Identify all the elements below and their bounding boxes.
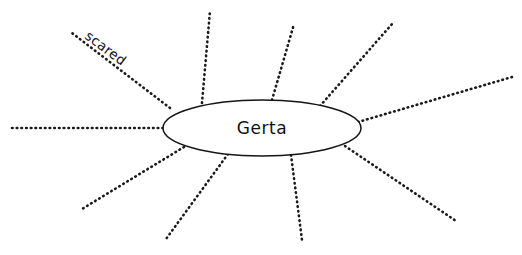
ray-top-center bbox=[272, 24, 294, 100]
center-bubble-label: Gerta bbox=[237, 118, 288, 138]
word-web-worksheet: Gerta scared bbox=[0, 0, 522, 255]
ray-bottom-right bbox=[291, 155, 302, 240]
ray-bottom-left bbox=[166, 154, 228, 239]
ray-top-right bbox=[320, 24, 392, 106]
ray-right-shallow bbox=[358, 77, 512, 122]
ray-upper-left-scared bbox=[72, 33, 170, 108]
branch-label-scared: scared bbox=[82, 27, 129, 68]
word-web-canvas: Gerta scared bbox=[0, 0, 522, 255]
ray-lower-left bbox=[82, 147, 184, 209]
ray-lower-right bbox=[345, 146, 456, 221]
ray-top-left bbox=[202, 11, 210, 103]
